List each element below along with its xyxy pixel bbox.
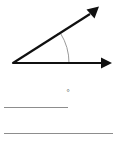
horizontal-ray-arrowhead-icon: [101, 58, 112, 69]
answer-line-2[interactable]: [4, 133, 113, 134]
angle-arc: [61, 33, 70, 63]
answer-line-1[interactable]: [4, 107, 68, 108]
upper-ray-arrowhead-icon: [87, 7, 100, 19]
upper-ray: [13, 14, 90, 63]
angle-measurement-worksheet: °: [0, 0, 125, 143]
degree-symbol-label: °: [63, 88, 73, 98]
angle-diagram: [0, 0, 125, 80]
angle-vertex: [12, 62, 14, 64]
